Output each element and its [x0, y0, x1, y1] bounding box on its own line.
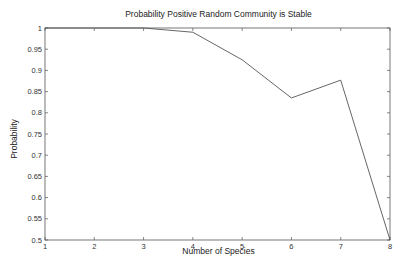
y-tick-label: 0.55: [27, 214, 42, 223]
x-tick-label: 5: [240, 242, 244, 251]
y-tick-label: 0.5: [32, 236, 42, 245]
y-tick-label: 0.7: [32, 151, 42, 160]
x-tick-label: 7: [339, 242, 343, 251]
data-line: [45, 28, 390, 240]
x-tick-label: 2: [92, 242, 96, 251]
y-tick-label: 0.8: [32, 108, 42, 117]
plot-area: 123456780.50.550.60.650.70.750.80.850.90…: [0, 0, 407, 265]
x-tick-label: 6: [289, 242, 293, 251]
y-tick-label: 0.9: [32, 66, 42, 75]
x-tick-label: 4: [191, 242, 195, 251]
axes-box: [45, 28, 390, 240]
y-tick-label: 0.65: [27, 172, 42, 181]
x-tick-label: 8: [388, 242, 392, 251]
x-tick-label: 1: [43, 242, 47, 251]
y-tick-label: 0.6: [32, 193, 42, 202]
y-tick-label: 0.85: [27, 87, 42, 96]
y-tick-label: 0.75: [27, 130, 42, 139]
y-tick-label: 0.95: [27, 45, 42, 54]
x-tick-label: 3: [141, 242, 145, 251]
y-tick-label: 1: [38, 24, 42, 33]
